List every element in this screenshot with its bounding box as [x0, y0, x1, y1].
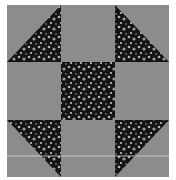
- quilt-block: [7, 5, 169, 177]
- center-square: [61, 62, 115, 120]
- quilt-block-graphic: [7, 5, 169, 177]
